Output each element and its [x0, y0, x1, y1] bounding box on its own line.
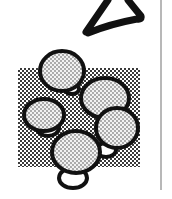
bubble-bottom: [52, 131, 100, 173]
handwritten-stroke: [86, 0, 141, 33]
margin-rule: [160, 0, 162, 190]
document-page: [0, 0, 172, 199]
bubble-left: [24, 99, 64, 131]
illustration: [0, 0, 172, 199]
bubble-top-left: [40, 51, 84, 91]
bubble-right: [96, 108, 138, 148]
